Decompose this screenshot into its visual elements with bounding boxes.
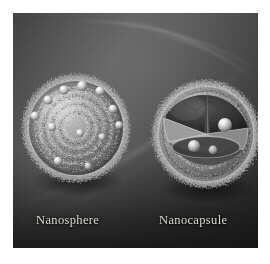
micrograph-plate: Nanosphere Nanocapsule [13,13,258,248]
nanocapsule-particle [147,72,258,212]
figure-root: Nanosphere Nanocapsule [0,0,270,264]
nanosphere-particle [18,65,138,205]
caption-nanocapsule: Nanocapsule [159,213,227,228]
caption-nanosphere: Nanosphere [36,213,99,228]
